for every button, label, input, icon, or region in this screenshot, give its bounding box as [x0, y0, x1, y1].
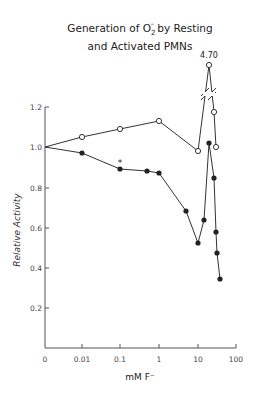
series-activated: [45, 140, 223, 281]
svg-text:1: 1: [157, 355, 162, 364]
data-point: [195, 240, 200, 245]
svg-text:10: 10: [193, 355, 203, 364]
svg-text:0.2: 0.2: [30, 304, 42, 313]
svg-text:1.2: 1.2: [30, 103, 42, 112]
series-resting: [45, 62, 219, 153]
data-point: [217, 276, 222, 281]
data-point: [156, 170, 161, 175]
data-point: [213, 144, 218, 149]
chart-title-line1: Generation of O2– by Resting: [67, 20, 212, 37]
y-axis-label: Relative Activity: [12, 193, 22, 267]
svg-text:0.1: 0.1: [114, 355, 126, 364]
svg-text:0.01: 0.01: [74, 355, 91, 364]
y-ticks: 1.2 1.0 0.8 0.6 0.4 0.2: [30, 103, 49, 313]
data-point: [206, 140, 211, 145]
svg-text:0.6: 0.6: [30, 224, 42, 233]
chart-title-line2: and Activated PMNs: [88, 40, 193, 52]
data-point: [195, 148, 200, 153]
data-point: [144, 168, 149, 173]
data-point: [79, 150, 84, 155]
data-point-peak: [206, 62, 211, 67]
svg-text:0.4: 0.4: [30, 264, 42, 273]
data-point: [213, 229, 218, 234]
x-ticks: 0 0.01 0.1 1 10 100: [43, 344, 244, 364]
data-point: [211, 175, 216, 180]
data-point: [183, 208, 188, 213]
significance-asterisk: *: [118, 158, 123, 168]
svg-text:100: 100: [229, 355, 244, 364]
x-axis-label: mM F⁻: [125, 372, 155, 382]
chart: Generation of O2– by Resting and Activat…: [0, 0, 253, 394]
peak-annotation: 4.70: [200, 51, 218, 60]
data-point: [201, 217, 206, 222]
data-point: [117, 126, 122, 131]
svg-text:1.0: 1.0: [30, 143, 42, 152]
data-point: [156, 118, 161, 123]
svg-text:0: 0: [43, 355, 48, 364]
data-point: [214, 250, 219, 255]
data-point: [79, 134, 84, 139]
data-point: [211, 109, 216, 114]
svg-text:0.8: 0.8: [30, 184, 42, 193]
